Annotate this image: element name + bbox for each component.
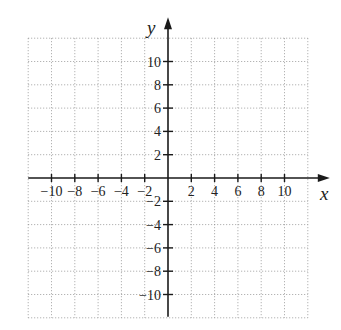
y-tick-label: −6 xyxy=(146,241,161,256)
x-tick-label: −8 xyxy=(67,184,82,199)
x-tick-label: 4 xyxy=(211,184,218,199)
x-tick-label: −4 xyxy=(114,184,129,199)
y-tick-label: 6 xyxy=(154,101,161,116)
y-tick-label: 2 xyxy=(154,148,161,163)
y-tick-label: −2 xyxy=(146,194,161,209)
x-tick-label: 6 xyxy=(234,184,241,199)
y-axis-label: y xyxy=(145,17,156,38)
y-tick-label: −10 xyxy=(139,288,161,303)
x-tick-label: −10 xyxy=(41,184,63,199)
y-axis-arrow-icon xyxy=(164,17,172,29)
x-tick-label: 2 xyxy=(188,184,195,199)
y-tick-label: 4 xyxy=(154,124,161,139)
x-tick-label: 10 xyxy=(278,184,292,199)
coordinate-plane: −10−8−6−4−2246810108642−2−4−6−8−10 x y xyxy=(0,0,341,330)
y-tick-label: 8 xyxy=(154,78,161,93)
x-tick-label: 8 xyxy=(258,184,265,199)
x-tick-label: −6 xyxy=(91,184,106,199)
y-tick-label: −4 xyxy=(146,218,161,233)
axes xyxy=(28,17,330,317)
y-tick-label: 10 xyxy=(147,55,161,70)
y-tick-label: −8 xyxy=(146,264,161,279)
x-axis-arrow-icon xyxy=(318,174,330,182)
x-axis-label: x xyxy=(319,183,329,204)
